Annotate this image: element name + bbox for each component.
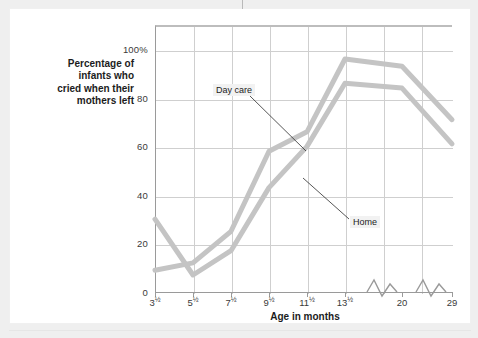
plot-area <box>155 25 452 292</box>
page-background: Percentage of infants who cried when the… <box>0 0 478 338</box>
gridline-y-100 <box>156 51 453 52</box>
x-tick-label-29: 29 <box>430 296 474 308</box>
line-chart: Percentage of infants who cried when the… <box>0 0 478 338</box>
gridline-x-13half <box>346 27 347 294</box>
gridline-y-20 <box>156 245 453 246</box>
y-tick-label-40: 40 <box>108 190 148 201</box>
y-axis-title-line-1: Percentage of <box>24 58 134 70</box>
gridline-y-40 <box>156 197 453 198</box>
y-tick-label-20: 20 <box>108 238 148 249</box>
y-tick-label-100: 100% <box>100 44 148 55</box>
x-tick-label-20: 20 <box>380 296 424 308</box>
y-tick-label-80: 80 <box>108 93 148 104</box>
annotation-day-care: Day care <box>213 84 255 96</box>
gridline-y-80 <box>156 100 453 101</box>
y-axis-title-line-2: infants who <box>24 70 134 82</box>
x-axis-line <box>155 292 452 293</box>
gridline-x-20 <box>422 27 423 294</box>
gridline-y-60 <box>156 148 453 149</box>
gridline-x-7half <box>232 27 233 294</box>
gridline-x-9half <box>270 27 271 294</box>
gridline-x-5half <box>194 27 195 294</box>
annotation-home: Home <box>350 216 380 228</box>
x-tick-label-13half: 13½ <box>323 296 367 308</box>
gridline-x-break1 <box>384 27 385 294</box>
gridline-x-11half <box>308 27 309 294</box>
x-axis-title: Age in months <box>210 311 400 322</box>
y-tick-label-60: 60 <box>108 141 148 152</box>
